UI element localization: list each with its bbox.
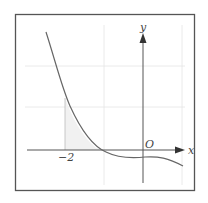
function-graph: y x O −2 [0,0,208,203]
origin-label: O [145,138,154,151]
frame [16,15,195,191]
tick-label-neg2: −2 [58,151,74,164]
x-axis-label: x [188,144,195,157]
y-axis-label: y [139,21,147,34]
